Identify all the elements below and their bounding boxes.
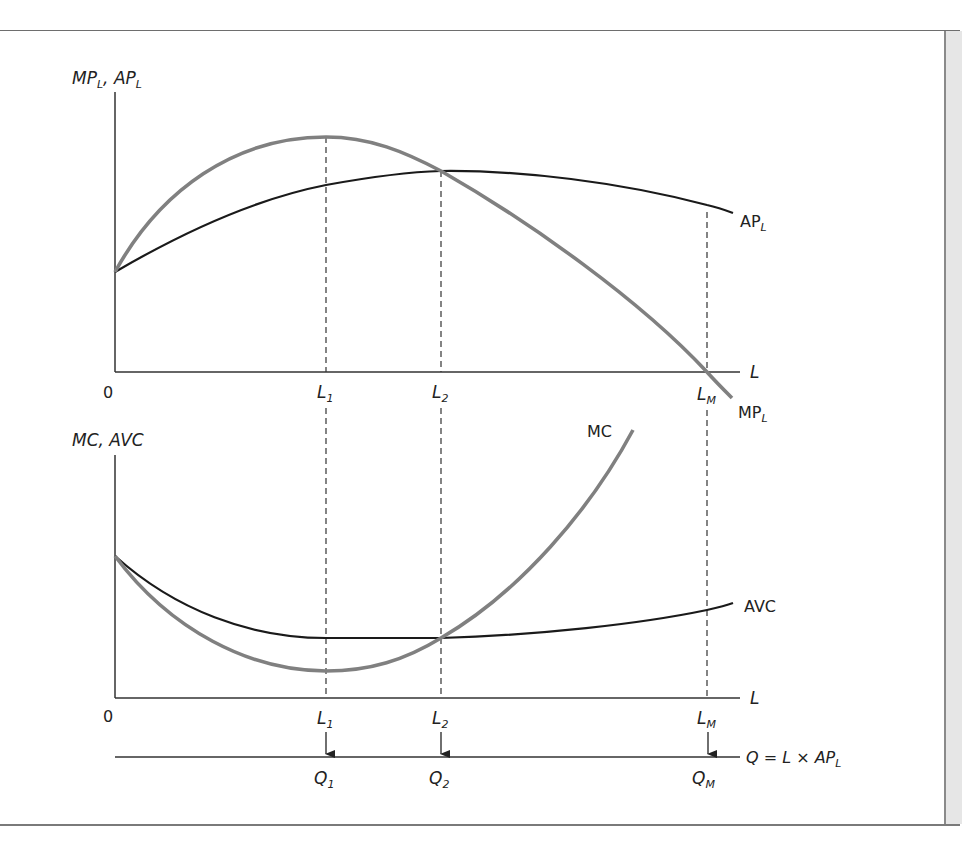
bottom-tick-l2: L2	[432, 708, 448, 731]
q-tick-q1: Q1	[314, 768, 334, 791]
mc-curve-label: MC	[587, 422, 612, 441]
top-tick-lm: LM	[697, 384, 716, 407]
bottom-tick-lm: LM	[697, 708, 716, 731]
mp-curve	[115, 137, 732, 398]
avc-curve-label: AVC	[744, 597, 776, 616]
mp-curve-label: MPL	[738, 403, 768, 425]
top-y-axis-label: MPL, APL	[72, 68, 142, 91]
q-axis-label: Q = L × APL	[746, 748, 841, 770]
bottom-chart: MC, AVC MC AVC 0 L L1 L2 LM	[72, 408, 776, 731]
q-axis-group: Q1 Q2 QM Q = L × APL	[115, 732, 841, 791]
ap-curve-label: APL	[740, 212, 767, 234]
q-tick-q2: Q2	[429, 768, 449, 791]
mc-curve	[115, 430, 633, 671]
bottom-origin-label: 0	[103, 707, 113, 726]
top-origin-label: 0	[103, 383, 113, 402]
top-x-axis-label: L	[750, 362, 759, 382]
q-tick-qm: QM	[692, 768, 715, 791]
bottom-tick-l1: L1	[317, 708, 333, 731]
ap-curve	[115, 171, 733, 272]
bottom-y-axis-label: MC, AVC	[72, 430, 144, 450]
top-tick-l1: L1	[317, 382, 333, 405]
top-chart: MPL, APL 0 L L1 L2 LM APL MPL	[72, 68, 768, 425]
bottom-x-axis-label: L	[750, 688, 759, 708]
avc-curve	[115, 556, 733, 638]
top-tick-l2: L2	[432, 382, 448, 405]
